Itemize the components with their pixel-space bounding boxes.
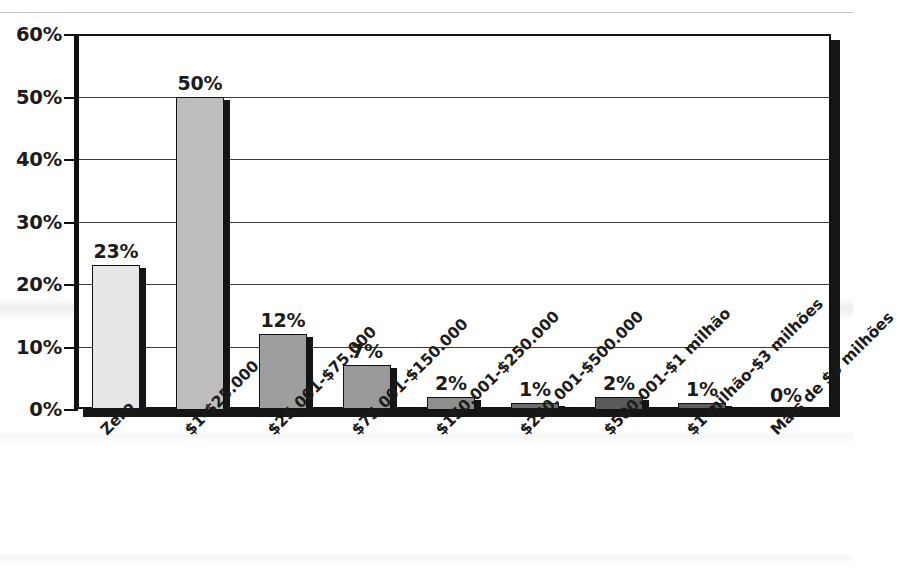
y-axis-line — [74, 34, 78, 411]
y-axis-label: 0% — [0, 398, 62, 421]
bar-side-face — [140, 268, 146, 412]
y-axis-label: 30% — [0, 211, 62, 234]
bar[interactable] — [92, 265, 140, 409]
bar-value-label: 23% — [78, 240, 154, 262]
y-axis-label: 60% — [0, 23, 62, 46]
y-axis-label: 40% — [0, 148, 62, 171]
bar-value-label: 50% — [162, 72, 238, 94]
y-axis-label: 10% — [0, 336, 62, 359]
bar-side-face — [224, 100, 230, 413]
y-axis-label: 50% — [0, 86, 62, 109]
bar[interactable] — [176, 97, 224, 410]
y-axis-label: 20% — [0, 273, 62, 296]
bar-value-label: 12% — [245, 309, 321, 331]
